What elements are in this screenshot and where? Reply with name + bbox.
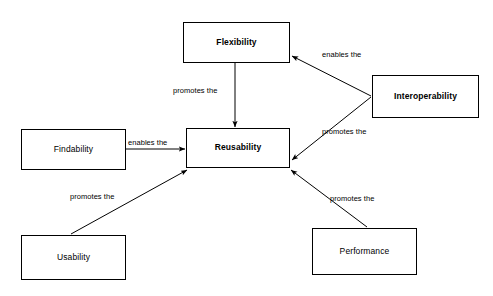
edge-label-flexibility-to-reusability: promotes the [173,86,217,95]
node-performance-label: Performance [340,247,390,256]
node-findability[interactable]: Findability [21,129,126,170]
edge-label-interoperability-to-reusability: promotes the [322,127,366,136]
edge-label-findability-to-reusability: enables the [128,138,167,147]
node-performance[interactable]: Performance [312,228,417,275]
node-interoperability[interactable]: Interoperability [372,75,479,118]
edge-label-usability-to-reusability: promotes the [70,192,114,201]
node-interoperability-label: Interoperability [394,92,457,101]
node-usability[interactable]: Usability [21,235,126,280]
node-findability-label: Findability [54,145,93,154]
node-flexibility[interactable]: Flexibility [183,22,290,63]
node-reusability[interactable]: Reusability [186,128,290,168]
diagram-canvas: Flexibility Interoperability Findability… [0,0,493,296]
node-flexibility-label: Flexibility [216,38,256,47]
edge-label-interoperability-to-flexibility: enables the [322,50,361,59]
node-reusability-label: Reusability [215,143,261,152]
edge-label-performance-to-reusability: promotes the [330,194,374,203]
edge-interoperability-to-flexibility [292,56,371,96]
edge-usability-to-reusability [71,170,187,234]
node-usability-label: Usability [57,253,90,262]
